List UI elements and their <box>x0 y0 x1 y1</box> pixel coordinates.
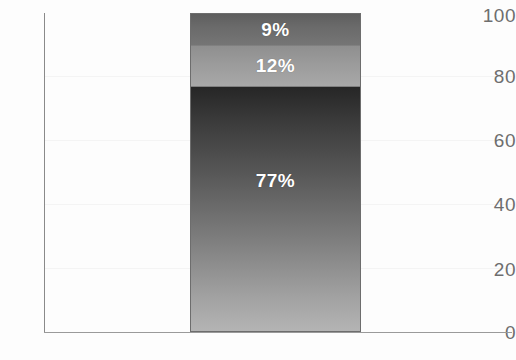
y-tick-label-40: 40 <box>478 195 516 214</box>
y-tick-label-20: 20 <box>478 260 516 279</box>
y-tick-label-80: 80 <box>478 67 516 86</box>
bar-segment-bottom-label: 77% <box>256 170 296 192</box>
stacked-bar-chart: 100 80 60 40 20 0 9% 12% 77% <box>0 0 516 360</box>
bar-segment-middle[interactable]: 12% <box>191 46 360 86</box>
x-axis-baseline <box>44 332 512 333</box>
bar-segment-bottom[interactable]: 77% <box>191 87 360 331</box>
y-tick-label-100: 100 <box>478 6 516 25</box>
bar-segment-top[interactable]: 9% <box>191 14 360 45</box>
bar-segment-top-label: 9% <box>261 19 289 41</box>
y-tick-label-60: 60 <box>478 131 516 150</box>
y-axis-line <box>44 13 45 332</box>
stacked-bar[interactable]: 9% 12% 77% <box>190 13 361 332</box>
bar-segment-middle-label: 12% <box>256 55 296 77</box>
